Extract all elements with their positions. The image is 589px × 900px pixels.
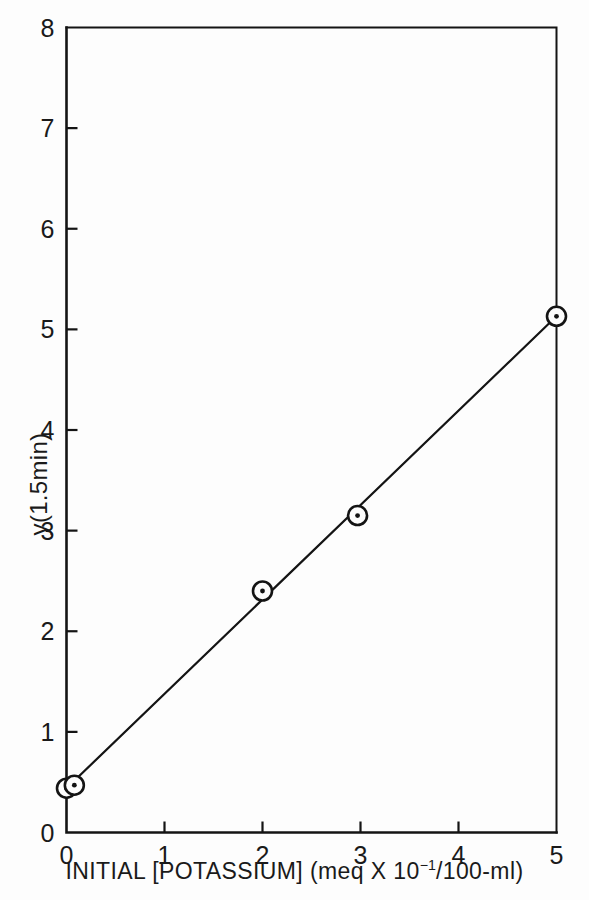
x-axis-title-tail: /100-ml) [436, 858, 524, 884]
data-point-1 [65, 776, 84, 795]
y-tick-label-0: 0 [19, 820, 55, 845]
y-tick-label-7: 7 [19, 116, 55, 141]
marker-center-dot [260, 589, 265, 594]
y-tick-label-8: 8 [19, 15, 55, 40]
x-axis-title-exponent: −1 [420, 857, 436, 873]
data-point-2 [253, 582, 272, 601]
figure-container: 012345678 012345 y(1.5min) INITIAL [POTA… [0, 0, 589, 900]
marker-center-dot [72, 783, 77, 788]
x-axis-ticks [165, 822, 459, 833]
data-point-4 [547, 307, 566, 326]
x-axis-title: INITIAL [POTASSIUM] (meq X 10−1/100-ml) [0, 857, 589, 885]
y-axis-ticks [67, 128, 78, 732]
marker-center-dot [554, 314, 559, 319]
marker-center-dot [355, 513, 360, 518]
y-tick-label-6: 6 [19, 216, 55, 241]
regression-line [67, 316, 557, 788]
y-tick-label-2: 2 [19, 619, 55, 644]
y-axis-title: y(1.5min) [25, 389, 53, 579]
x-axis-title-main: INITIAL [POTASSIUM] (meq X 10 [66, 858, 420, 884]
plot-canvas [0, 0, 589, 900]
fit-line [67, 316, 557, 788]
axes-frame [67, 28, 557, 833]
y-tick-label-5: 5 [19, 317, 55, 342]
axis-line-top-right [67, 28, 557, 833]
axis-line-left-bottom [67, 28, 557, 833]
data-point-3 [348, 506, 367, 525]
y-tick-label-1: 1 [19, 719, 55, 744]
